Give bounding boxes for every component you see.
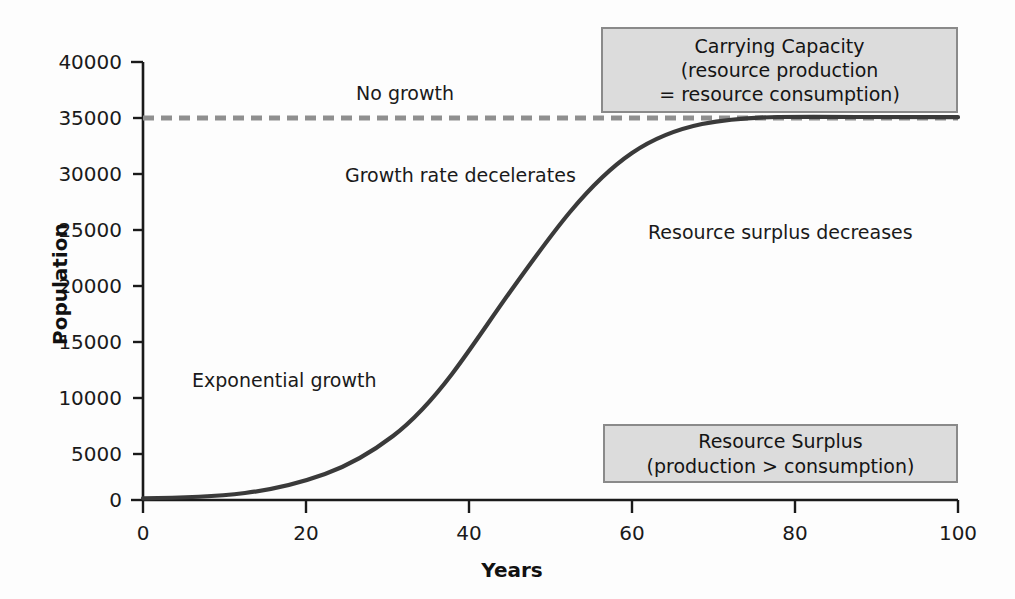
- annotation-no-growth: No growth: [356, 82, 454, 104]
- y-tick-label-0: 0: [0, 488, 122, 512]
- y-tick-label-30000: 30000: [0, 162, 122, 186]
- y-tick-label-35000: 35000: [0, 106, 122, 130]
- x-tick-label-20: 20: [293, 521, 318, 545]
- callout-resource-surplus: Resource Surplus (production > consumpti…: [603, 424, 958, 483]
- callout-resource-surplus-line-1: Resource Surplus: [698, 429, 862, 453]
- y-tick-label-40000: 40000: [0, 50, 122, 74]
- annotation-resource-surplus-decreases: Resource surplus decreases: [648, 221, 913, 243]
- x-tick-label-60: 60: [619, 521, 644, 545]
- callout-carrying-capacity-line-1: Carrying Capacity: [695, 34, 865, 58]
- x-tick-label-0: 0: [137, 521, 150, 545]
- annotation-growth-rate-decelerates: Growth rate decelerates: [345, 164, 576, 186]
- x-tick-label-80: 80: [782, 521, 807, 545]
- population-growth-chart: 40000 35000 30000 25000 20000 15000 1000…: [0, 0, 1015, 599]
- callout-carrying-capacity-line-3: = resource consumption): [659, 82, 900, 106]
- y-axis-title: Population: [48, 223, 72, 345]
- callout-resource-surplus-line-2: (production > consumption): [647, 454, 915, 478]
- callout-carrying-capacity-line-2: (resource production: [681, 58, 879, 82]
- callout-carrying-capacity: Carrying Capacity (resource production =…: [601, 27, 958, 113]
- x-tick-label-40: 40: [456, 521, 481, 545]
- y-axis-tick-marks: [131, 62, 143, 500]
- y-tick-label-10000: 10000: [0, 386, 122, 410]
- x-axis-title: Years: [481, 558, 542, 582]
- x-tick-label-100: 100: [939, 521, 977, 545]
- annotation-exponential-growth: Exponential growth: [192, 369, 377, 391]
- x-axis-tick-marks: [143, 500, 958, 513]
- y-tick-label-5000: 5000: [0, 442, 122, 466]
